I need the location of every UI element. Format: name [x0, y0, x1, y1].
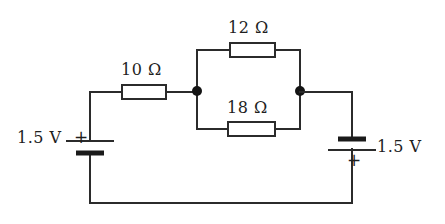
resistor-12-ohm-label: 12 Ω	[228, 20, 269, 36]
resistor-10-ohm-label: 10 Ω	[121, 62, 162, 78]
resistor-10-ohm-body	[122, 85, 166, 99]
resistor-18-ohm-label: 18 Ω	[227, 100, 268, 116]
battery-right-voltage-label: 1.5 V	[377, 139, 422, 155]
resistor-12-ohm-body	[230, 43, 275, 57]
wire-parallel-upper-right	[275, 50, 300, 92]
battery-left-voltage-label: 1.5 V	[17, 130, 62, 146]
junction-node-left-dot	[192, 86, 202, 96]
battery-left-polarity-label: +	[74, 129, 88, 146]
battery-right-polarity-label: +	[347, 152, 361, 169]
wire-parallel-upper-left	[197, 50, 230, 92]
resistor-18-ohm-body	[228, 122, 275, 136]
wire-parallel-lower-right	[275, 92, 300, 129]
wire-parallel-lower-left	[197, 92, 228, 129]
circuit-schematic-svg	[0, 0, 445, 224]
circuit-diagram-canvas: 10 Ω 12 Ω 18 Ω 1.5 V + 1.5 V +	[0, 0, 445, 224]
